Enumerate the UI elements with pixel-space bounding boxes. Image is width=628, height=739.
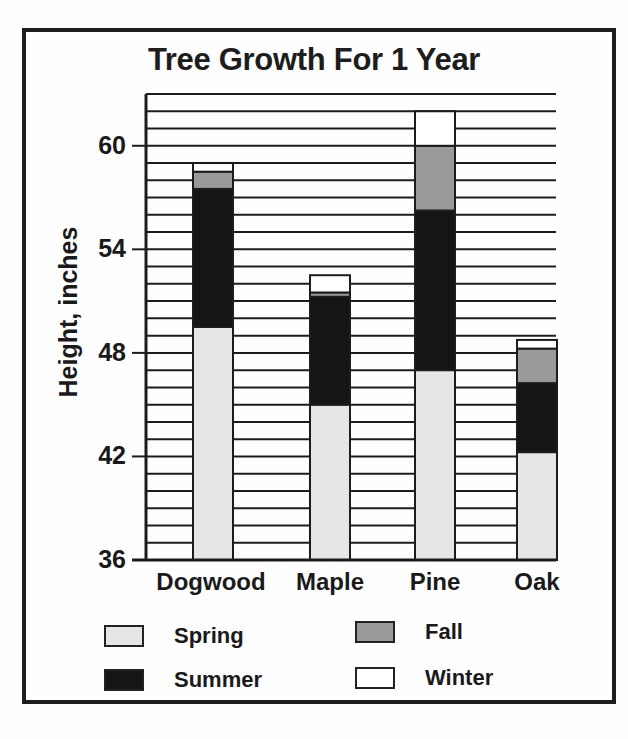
bar-segment-winter: [193, 163, 233, 172]
legend-item-summer: Summer: [104, 667, 262, 693]
bar-segment-fall: [193, 172, 233, 189]
legend-swatch: [355, 667, 395, 689]
bar-segment-winter: [415, 111, 455, 146]
y-tick-label: 60: [76, 131, 126, 160]
bar-segment-winter: [517, 340, 557, 349]
x-tick-label: Oak: [477, 568, 597, 596]
legend-item-fall: Fall: [355, 619, 463, 645]
y-tick-label: 36: [76, 545, 126, 574]
plot-area: [0, 0, 628, 739]
bar-segment-fall: [517, 349, 557, 384]
legend-label: Summer: [174, 667, 262, 693]
legend-swatch: [355, 621, 395, 643]
legend-item-spring: Spring: [104, 623, 244, 649]
bar-segment-spring: [193, 327, 233, 560]
legend-label: Spring: [174, 623, 244, 649]
bar-segment-spring: [415, 370, 455, 560]
legend-swatch: [104, 669, 144, 691]
x-tick-label: Dogwood: [151, 568, 271, 596]
legend-swatch: [104, 625, 144, 647]
bar-segment-spring: [310, 405, 350, 560]
bar-segment-winter: [310, 275, 350, 292]
legend-label: Fall: [425, 619, 463, 645]
bar-segment-summer: [415, 211, 455, 371]
y-tick-label: 54: [76, 234, 126, 263]
y-tick-label: 42: [76, 441, 126, 470]
x-tick-label: Maple: [270, 568, 390, 596]
bar-segment-spring: [517, 452, 557, 560]
legend-label: Winter: [425, 665, 493, 691]
bar-segment-summer: [193, 189, 233, 327]
bar-segment-summer: [517, 383, 557, 452]
legend-item-winter: Winter: [355, 665, 493, 691]
bar-segment-summer: [310, 297, 350, 405]
bar-segment-fall: [415, 146, 455, 211]
y-tick-label: 48: [76, 338, 126, 367]
